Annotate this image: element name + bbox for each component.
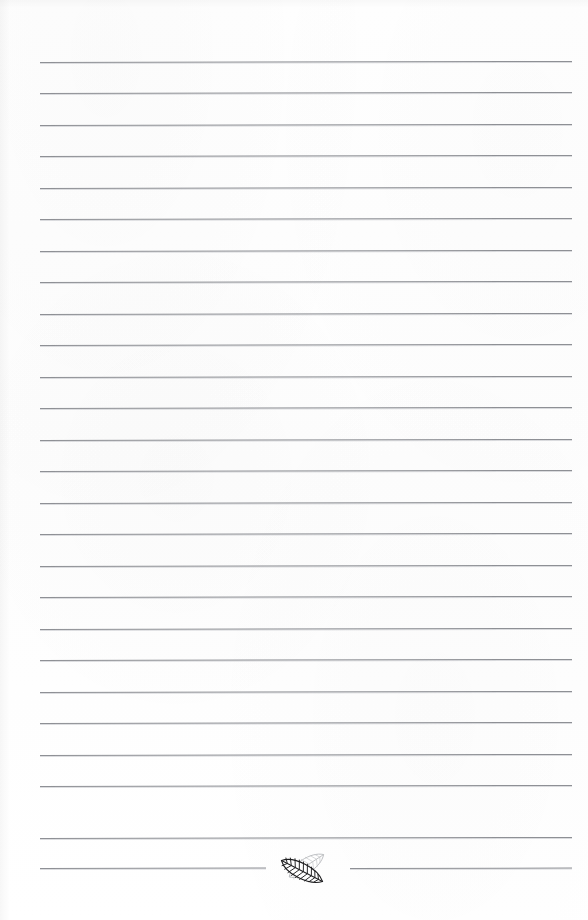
- ruled-line: [0, 314, 588, 317]
- ruled-line: [0, 345, 588, 348]
- ruled-line-stroke: [40, 313, 572, 315]
- ruled-line: [0, 692, 588, 695]
- ruled-line: [0, 93, 588, 96]
- ruled-line-stroke: [40, 124, 572, 126]
- ruled-line-stroke: [40, 533, 572, 535]
- ruled-line-stroke: [40, 281, 572, 283]
- ruled-line-stroke: [40, 722, 572, 724]
- ruled-line: [0, 156, 588, 159]
- ruled-line: [0, 188, 588, 191]
- ruled-line-stroke: [40, 61, 572, 63]
- ruled-line-stroke: [40, 218, 572, 220]
- ruled-line: [0, 597, 588, 600]
- ruled-line: [0, 471, 588, 474]
- ruled-line: [0, 566, 588, 569]
- ruled-line-stroke: [40, 659, 572, 661]
- ruled-line: [0, 786, 588, 789]
- ruled-line: [0, 408, 588, 411]
- ruled-line-segment-left: [40, 868, 266, 869]
- ruled-line-stroke: [40, 628, 572, 630]
- ruled-line-stroke: [40, 250, 572, 252]
- ruled-line-stroke: [40, 407, 572, 409]
- ruled-line-stroke: [40, 565, 572, 567]
- ruled-line-stroke: [40, 92, 572, 94]
- ruled-line: [0, 534, 588, 537]
- leaf-pair-icon: [272, 838, 340, 894]
- page-left-shading: [0, 0, 10, 920]
- ruled-line: [0, 377, 588, 380]
- ruled-line-stroke: [40, 344, 572, 346]
- page-top-shading: [0, 0, 588, 8]
- leaf-ornament: [272, 838, 340, 894]
- notepad-page: [0, 0, 588, 920]
- ruled-line: [0, 440, 588, 443]
- ruled-line: [0, 62, 588, 65]
- ruled-line: [0, 723, 588, 726]
- ruled-line: [0, 503, 588, 506]
- ruled-line-stroke: [40, 187, 572, 189]
- ruled-line-stroke: [40, 470, 572, 472]
- ruled-line-stroke: [40, 785, 572, 787]
- ruled-line-segment-right: [350, 868, 572, 869]
- ruled-line-stroke: [40, 754, 572, 756]
- ruled-line-stroke: [40, 155, 572, 157]
- ruled-line: [0, 219, 588, 222]
- ruled-line-stroke: [40, 439, 572, 441]
- ruled-line-stroke: [40, 691, 572, 693]
- ruled-line: [0, 251, 588, 254]
- ruled-line: [0, 629, 588, 632]
- ruled-line: [0, 282, 588, 285]
- ruled-line: [0, 755, 588, 758]
- ruled-line-stroke: [40, 502, 572, 504]
- ruled-line-stroke: [40, 376, 572, 378]
- paper-texture: [0, 0, 588, 920]
- ruled-line: [0, 660, 588, 663]
- ruled-line: [0, 125, 588, 128]
- ruled-line-stroke: [40, 596, 572, 598]
